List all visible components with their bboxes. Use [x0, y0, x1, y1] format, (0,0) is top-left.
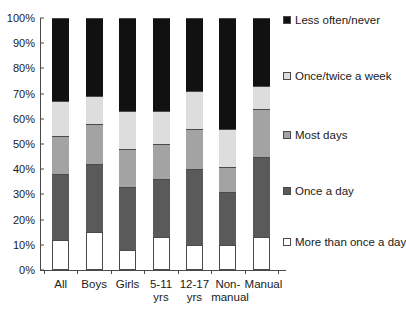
bar-stack — [119, 18, 136, 270]
x-axis-tick-mark — [44, 270, 45, 274]
bar-stack — [86, 18, 103, 270]
legend-label: Once a day — [295, 185, 354, 197]
bar-column — [219, 18, 236, 270]
y-axis-tick-label: 0% — [19, 265, 40, 276]
x-axis-tick-label: 12-17 yrs — [178, 278, 211, 304]
bar-segment — [86, 164, 103, 232]
bar-column — [86, 18, 103, 270]
bar-segment — [219, 245, 236, 270]
x-axis-tick-mark — [245, 270, 246, 274]
y-axis-tick-label: 10% — [13, 239, 40, 250]
bar-segment — [52, 174, 69, 240]
x-axis-tick-label: 5-11 yrs — [144, 278, 177, 304]
bar-group — [40, 18, 274, 270]
bar-segment — [253, 237, 270, 270]
bar-segment — [86, 232, 103, 270]
y-axis-tick-label: 50% — [13, 139, 40, 150]
bar-stack — [186, 18, 203, 270]
x-axis-tick-mark — [144, 270, 145, 274]
bar-stack — [253, 18, 270, 270]
y-axis-tick-label: 80% — [13, 63, 40, 74]
bar-segment — [52, 136, 69, 174]
plot-area: 0%10%20%30%40%50%60%70%80%90%100% — [40, 18, 274, 270]
bar-stack — [52, 18, 69, 270]
x-axis-tick-mark — [178, 270, 179, 274]
bar-segment — [86, 18, 103, 96]
legend-swatch-icon — [283, 72, 291, 80]
bar-column — [119, 18, 136, 270]
legend-label: More than once a day — [295, 236, 406, 248]
x-axis-tick-mark — [211, 270, 212, 274]
legend-swatch-icon — [283, 131, 291, 139]
bar-column — [52, 18, 69, 270]
legend-swatch-icon — [283, 238, 291, 246]
bar-segment — [186, 245, 203, 270]
bar-segment — [86, 124, 103, 164]
bar-segment — [219, 18, 236, 129]
bar-segment — [119, 111, 136, 149]
bar-segment — [86, 96, 103, 124]
y-axis-tick-label: 100% — [7, 13, 40, 24]
bar-stack — [219, 18, 236, 270]
legend-item: More than once a day — [283, 236, 406, 248]
x-axis-tick-mark — [111, 270, 112, 274]
bar-segment — [219, 192, 236, 245]
y-axis-tick-label: 90% — [13, 38, 40, 49]
legend-label: Once/twice a week — [295, 70, 392, 82]
bar-segment — [119, 149, 136, 187]
x-axis-tick-label: All — [44, 278, 77, 291]
bar-segment — [186, 129, 203, 169]
bar-segment — [52, 101, 69, 136]
legend-item: Less often/never — [283, 14, 380, 26]
bar-segment — [186, 18, 203, 91]
bar-segment — [219, 129, 236, 167]
legend-item: Most days — [283, 129, 347, 141]
bar-segment — [186, 169, 203, 245]
legend-item: Once/twice a week — [283, 70, 392, 82]
bar-stack — [153, 18, 170, 270]
y-axis-tick-label: 20% — [13, 214, 40, 225]
x-axis-tick-mark — [278, 270, 279, 274]
legend-item: Once a day — [283, 185, 354, 197]
bar-segment — [186, 91, 203, 129]
legend-label: Most days — [295, 129, 347, 141]
x-axis-tick-label: Boys — [77, 278, 110, 291]
legend-swatch-icon — [283, 16, 291, 24]
bar-segment — [153, 237, 170, 270]
y-axis-tick-label: 30% — [13, 189, 40, 200]
bar-segment — [52, 18, 69, 101]
bar-segment — [153, 111, 170, 144]
bar-segment — [119, 250, 136, 270]
bar-segment — [52, 240, 69, 270]
bar-segment — [253, 157, 270, 238]
bar-column — [253, 18, 270, 270]
legend-swatch-icon — [283, 187, 291, 195]
y-axis-tick-label: 70% — [13, 88, 40, 99]
legend-label: Less often/never — [295, 14, 380, 26]
y-axis-tick-label: 60% — [13, 113, 40, 124]
bar-segment — [119, 18, 136, 111]
bar-segment — [253, 86, 270, 109]
bar-segment — [153, 144, 170, 179]
bar-column — [153, 18, 170, 270]
bar-segment — [119, 187, 136, 250]
bar-column — [186, 18, 203, 270]
x-axis-tick-mark — [77, 270, 78, 274]
bar-segment — [219, 167, 236, 192]
x-axis-tick-label: Girls — [111, 278, 144, 291]
bar-segment — [153, 179, 170, 237]
y-axis-tick-label: 40% — [13, 164, 40, 175]
x-axis-tick-label: Manual — [245, 278, 278, 291]
bar-segment — [153, 18, 170, 111]
x-axis-tick-label: Non- manual — [211, 278, 244, 304]
bar-segment — [253, 18, 270, 86]
bar-segment — [253, 109, 270, 157]
